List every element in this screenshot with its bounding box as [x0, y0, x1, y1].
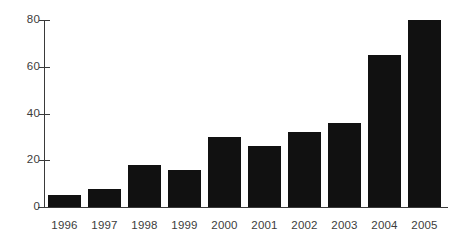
- bar: [48, 195, 81, 207]
- bar: [288, 132, 321, 207]
- bar: [128, 165, 161, 207]
- bar: [208, 137, 241, 207]
- bars-layer: [0, 0, 452, 245]
- bar: [408, 20, 441, 207]
- x-tick-label: 2005: [402, 220, 448, 232]
- bar: [328, 123, 361, 207]
- bar: [88, 189, 121, 207]
- bar: [168, 170, 201, 207]
- bar-chart: 020406080 199619971998199920002001200220…: [0, 0, 452, 245]
- bar: [368, 55, 401, 207]
- bar: [248, 146, 281, 207]
